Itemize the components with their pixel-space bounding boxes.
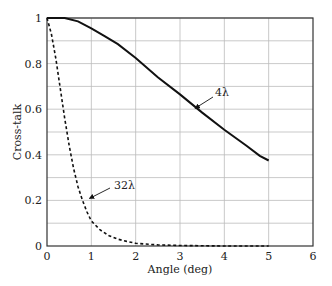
x-tick-label: 0 — [44, 250, 51, 263]
y-axis-label: Cross-talk — [11, 103, 24, 160]
y-tick-label: 0.2 — [25, 194, 43, 207]
y-tick-label: 0.4 — [25, 149, 43, 162]
x-axis-ticks: 0123456 — [44, 250, 317, 263]
y-tick-label: 0.8 — [25, 58, 43, 71]
y-axis-ticks: 00.20.40.60.81 — [25, 12, 43, 253]
y-tick-label: 1 — [35, 12, 42, 25]
x-tick-label: 2 — [132, 250, 139, 263]
annotation-4-lambda: 4λ — [215, 86, 229, 99]
x-tick-label: 1 — [88, 250, 95, 263]
x-tick-label: 6 — [310, 250, 317, 263]
annotation-32-lambda: 32λ — [114, 179, 135, 192]
y-tick-label: 0 — [35, 240, 42, 253]
series-4-lambda-line — [47, 18, 269, 161]
x-axis-label: Angle (deg) — [147, 263, 213, 276]
cross-talk-chart: 0123456 00.20.40.60.81 4λ32λ Angle (deg)… — [0, 0, 332, 286]
x-tick-label: 3 — [177, 250, 184, 263]
arrow-icon — [90, 188, 110, 198]
x-tick-label: 5 — [265, 250, 272, 263]
y-tick-label: 0.6 — [25, 103, 43, 116]
annotations: 4λ32λ — [90, 86, 229, 198]
arrow-icon — [195, 97, 213, 108]
x-tick-label: 4 — [221, 250, 228, 263]
